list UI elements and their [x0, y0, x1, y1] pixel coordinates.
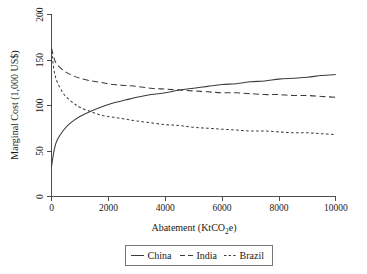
x-axis-tick-labels: 0 2000 4000 6000 8000 10000 — [49, 203, 348, 213]
y-tick-label-100: 100 — [35, 98, 45, 113]
series-line-india — [52, 48, 336, 97]
plot-series — [52, 48, 336, 166]
x-axis-title-pre: Abatement (KtCO — [151, 222, 225, 234]
chart-legend: China India Brazil — [126, 246, 273, 266]
y-tick-label-0: 0 — [35, 194, 45, 199]
x-tick-label-8000: 8000 — [270, 203, 289, 213]
chart-figure: 200 150 100 50 0 Marginal Cost (1,000 US… — [0, 0, 367, 274]
y-tick-label-150: 150 — [35, 53, 45, 68]
y-axis-tick-labels: 200 150 100 50 0 — [35, 7, 45, 199]
x-axis-title: Abatement (KtCO2e) — [151, 222, 236, 236]
y-axis-ticks — [47, 15, 52, 197]
y-tick-label-200: 200 — [35, 7, 45, 22]
x-tick-label-4000: 4000 — [156, 203, 175, 213]
legend-label-brazil: Brazil — [240, 250, 265, 261]
y-tick-label-50: 50 — [35, 146, 45, 156]
legend-label-china: China — [148, 250, 172, 261]
series-line-brazil — [52, 51, 336, 135]
x-tick-label-6000: 6000 — [213, 203, 232, 213]
series-line-china — [52, 75, 336, 167]
x-axis-ticks — [52, 197, 336, 202]
y-axis-title: Marginal Cost (1,000 US$) — [9, 50, 21, 159]
x-tick-label-0: 0 — [49, 203, 54, 213]
legend-label-india: India — [197, 250, 218, 261]
chart-svg: 200 150 100 50 0 Marginal Cost (1,000 US… — [0, 0, 367, 274]
x-tick-label-10000: 10000 — [324, 203, 348, 213]
x-tick-label-2000: 2000 — [99, 203, 118, 213]
x-axis-title-post: e) — [229, 222, 237, 234]
